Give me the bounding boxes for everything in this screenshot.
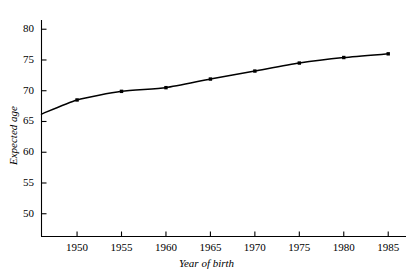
x-tick-label: 1965 <box>190 242 230 253</box>
y-tick-label: 50 <box>8 208 34 219</box>
x-tick-label: 1955 <box>102 242 142 253</box>
x-tick-label: 1975 <box>279 242 319 253</box>
x-tick-label: 1970 <box>235 242 275 253</box>
series-line-expected-age <box>42 54 389 114</box>
data-point-marker <box>342 56 345 59</box>
data-point-marker <box>298 61 301 64</box>
chart-figure: 50556065707580 1950195519601965197019751… <box>0 0 413 275</box>
x-tick-label: 1950 <box>57 242 97 253</box>
data-point-marker <box>209 77 212 80</box>
y-tick-label: 55 <box>8 177 34 188</box>
series-markers <box>75 52 390 102</box>
x-tick-label: 1980 <box>324 242 364 253</box>
chart-axes <box>41 20 406 237</box>
x-tick-label: 1985 <box>368 242 408 253</box>
x-axis-ticks <box>77 232 388 237</box>
y-axis-title: Expected age <box>8 106 19 165</box>
data-point-marker <box>120 90 123 93</box>
line-chart-plot <box>0 0 413 275</box>
y-tick-label: 75 <box>8 54 34 65</box>
data-point-marker <box>75 98 78 101</box>
data-point-marker <box>387 52 390 55</box>
data-point-marker <box>164 86 167 89</box>
y-tick-label: 80 <box>8 23 34 34</box>
y-axis-ticks <box>42 29 47 214</box>
y-tick-label: 70 <box>8 85 34 96</box>
x-axis-title: Year of birth <box>0 258 413 269</box>
x-tick-label: 1960 <box>146 242 186 253</box>
data-point-marker <box>253 69 256 72</box>
